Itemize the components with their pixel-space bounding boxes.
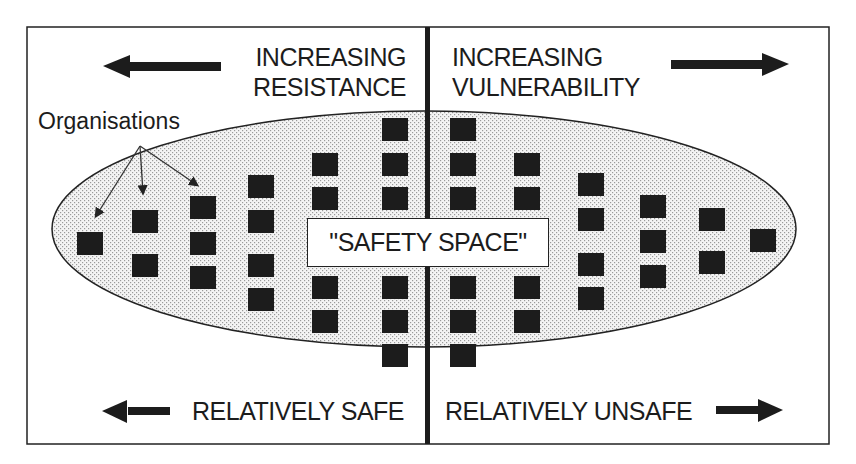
increasing-vulnerability-label: INCREASING VULNERABILITY [452,42,640,102]
organisations-label: Organisations [38,108,180,135]
organisation-square [190,196,216,219]
organisation-square [132,210,158,233]
organisation-square [132,254,158,277]
organisation-square [514,276,540,299]
right-arrow-icon [716,399,783,422]
organisation-square [312,187,338,210]
organisation-square [382,118,408,141]
organisation-square [77,232,103,255]
safety-space-diagram: INCREASING RESISTANCE INCREASING VULNERA… [0,0,856,464]
organisation-square [578,208,604,231]
organisation-square [514,187,540,210]
organisation-square [450,187,476,210]
organisation-square [248,288,274,311]
organisation-square [640,265,666,288]
organisation-square [750,229,776,252]
organisation-square [450,118,476,141]
label-line: INCREASING [250,42,406,72]
organisation-square [312,153,338,176]
organisation-square [450,344,476,367]
organisation-square [699,251,725,274]
organisation-square [248,175,274,198]
organisation-square [312,276,338,299]
organisation-square [578,253,604,276]
organisation-square [640,195,666,218]
left-arrow-icon [102,400,170,423]
organisation-square [578,173,604,196]
left-arrow-icon [103,55,221,78]
organisation-square [640,230,666,253]
organisation-square [514,153,540,176]
relatively-unsafe-label: RELATIVELY UNSAFE [445,396,692,426]
safety-space-label: "SAFETY SPACE" [307,218,549,267]
organisation-square [382,310,408,333]
organisation-square [699,208,725,231]
organisation-square [450,276,476,299]
organisation-square [382,276,408,299]
organisation-square [190,266,216,289]
increasing-resistance-label: INCREASING RESISTANCE [250,42,406,102]
organisation-square [382,153,408,176]
label-line: VULNERABILITY [452,72,640,102]
organisation-square [578,287,604,310]
organisation-square [450,310,476,333]
organisation-square [382,344,408,367]
organisation-square [248,254,274,277]
label-line: INCREASING [452,42,640,72]
organisation-square [382,187,408,210]
right-arrow-icon [671,53,789,76]
organisation-square [312,310,338,333]
organisation-square [190,232,216,255]
organisation-square [450,153,476,176]
label-line: RESISTANCE [250,72,406,102]
organisation-square [248,210,274,233]
relatively-safe-label: RELATIVELY SAFE [192,396,404,426]
organisation-square [514,310,540,333]
